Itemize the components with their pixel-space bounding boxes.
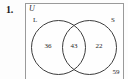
venn-diagram-figure: 1. U L S 36 43 22 59	[0, 0, 128, 79]
exercise-number: 1.	[6, 4, 13, 15]
universal-set-label: U	[29, 4, 35, 13]
venn-circle-right-label: S	[111, 16, 115, 24]
venn-region-right-only-value: 22	[92, 42, 106, 50]
venn-region-outside-value: 59	[109, 68, 123, 76]
venn-region-intersection-value: 43	[67, 42, 81, 50]
venn-circle-left-label: L	[33, 16, 37, 24]
venn-region-left-only-value: 36	[41, 42, 55, 50]
